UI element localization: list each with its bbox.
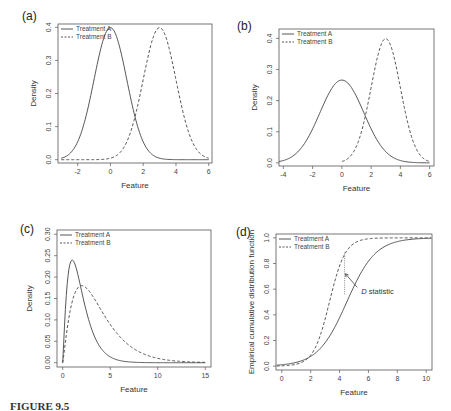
y-tick-label: 0.2 [263, 336, 270, 346]
panel-a: (a)-202460.00.10.20.30.4FeatureDensityTr… [22, 9, 212, 190]
y-tick-label: 0.05 [44, 334, 51, 348]
x-tick-label: 4 [338, 375, 342, 382]
y-tick-label: 0.6 [263, 284, 270, 294]
x-tick-label: 0 [280, 375, 284, 382]
y-tick-label: 0.2 [266, 96, 273, 106]
x-tick-label: 2 [309, 375, 313, 382]
panel-label: (a) [22, 9, 37, 23]
y-tick-label: 0.1 [45, 122, 52, 132]
y-tick-label: 0.25 [44, 249, 51, 263]
plot-frame [57, 230, 211, 367]
y-tick-label: 0.00 [44, 356, 51, 370]
y-tick-label: 0.0 [263, 361, 270, 371]
y-tick-label: 0.2 [45, 89, 52, 99]
x-tick-label: 4 [398, 171, 402, 178]
legend-treatment-a: Treatment A [75, 231, 111, 238]
x-tick-label: 4 [174, 168, 178, 175]
series-treatment-b [63, 286, 206, 363]
series-treatment-b [277, 238, 432, 366]
x-tick-label: 0 [108, 168, 112, 175]
y-axis-label: Density [29, 80, 38, 107]
legend-treatment-b: Treatment B [294, 243, 330, 250]
x-tick-label: 2 [369, 171, 373, 178]
plot-frame [276, 234, 432, 370]
x-tick-label: 2 [141, 168, 145, 175]
y-tick-label: 0.10 [44, 313, 51, 327]
panel-d: (d)02468100.00.20.40.60.81.0FeatureEmpir… [236, 225, 432, 397]
y-tick-label: 0.4 [263, 310, 270, 320]
x-axis-label: Feature [120, 385, 148, 394]
y-tick-label: 0.0 [266, 158, 273, 168]
legend-treatment-b: Treatment B [297, 38, 333, 45]
x-tick-label: 10 [154, 372, 162, 379]
caption-label: FIGURE 9.5 [10, 400, 69, 411]
y-axis-label: Density [250, 84, 259, 111]
legend-treatment-b: Treatment B [76, 33, 112, 40]
x-axis-label: Feature [343, 184, 371, 193]
legend-treatment-a: Treatment A [76, 25, 112, 32]
legend-treatment-b: Treatment B [75, 239, 111, 246]
x-tick-label: 10 [422, 375, 430, 382]
figure-canvas: (a)-202460.00.10.20.30.4FeatureDensityTr… [0, 0, 451, 411]
y-tick-label: 1.0 [263, 233, 270, 243]
panel-c: (c)0510150.000.050.100.150.200.250.30Fea… [20, 222, 211, 394]
plot-frame [58, 24, 212, 163]
panel-b: (b)-4-202460.00.10.20.30.4FeatureDensity… [237, 19, 434, 193]
x-tick-label: 5 [108, 372, 112, 379]
y-axis-label: Empirical cumulative distribution functi… [247, 230, 256, 375]
x-tick-label: -4 [280, 171, 286, 178]
y-tick-label: 0.3 [45, 55, 52, 65]
x-tick-label: -2 [75, 168, 81, 175]
x-tick-label: 0 [340, 171, 344, 178]
series-treatment-b [342, 39, 430, 162]
y-tick-label: 0.30 [44, 227, 51, 241]
y-tick-label: 0.20 [44, 270, 51, 284]
series-treatment-a [63, 260, 206, 363]
panel-label: (b) [237, 19, 252, 33]
x-tick-label: 6 [207, 168, 211, 175]
y-axis-label: Density [25, 285, 34, 312]
x-tick-label: 6 [428, 171, 432, 178]
series-treatment-a [61, 28, 208, 160]
y-tick-label: 0.0 [45, 155, 52, 165]
x-axis-label: Feature [121, 181, 149, 190]
x-tick-label: -2 [310, 171, 316, 178]
x-tick-label: 0 [61, 372, 65, 379]
arrow-icon [345, 274, 357, 288]
x-axis-label: Feature [340, 388, 368, 397]
y-tick-label: 0.15 [44, 292, 51, 306]
x-tick-label: 15 [201, 372, 209, 379]
x-tick-label: 8 [395, 375, 399, 382]
y-tick-label: 0.3 [266, 65, 273, 75]
series-treatment-b [61, 28, 208, 160]
y-tick-label: 0.4 [45, 22, 52, 32]
y-tick-label: 0.4 [266, 33, 273, 43]
x-tick-label: 6 [366, 375, 370, 382]
y-tick-label: 0.1 [266, 127, 273, 137]
figure-caption: FIGURE 9.5 [10, 400, 69, 411]
legend-treatment-a: Treatment A [297, 30, 333, 37]
legend-treatment-a: Treatment A [294, 235, 330, 242]
d-statistic-annotation: D statistic [361, 287, 394, 296]
series-treatment-a [277, 238, 432, 365]
y-tick-label: 0.8 [263, 259, 270, 269]
panel-label: (c) [20, 222, 34, 236]
